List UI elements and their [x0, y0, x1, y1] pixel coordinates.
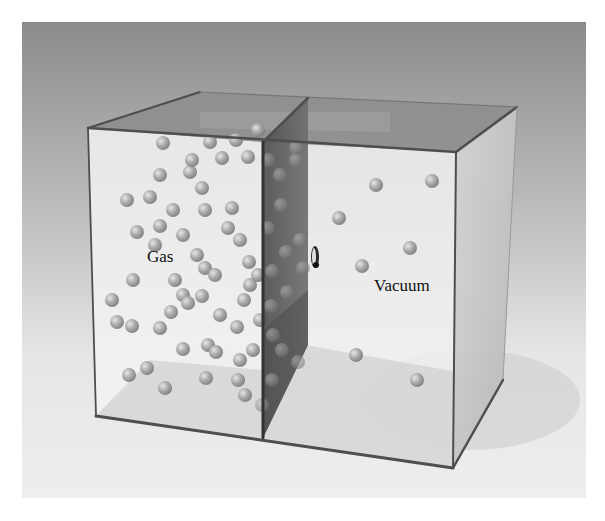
- gas-particle: [241, 150, 255, 164]
- gas-particle: [190, 248, 204, 262]
- gas-particle: [369, 178, 383, 192]
- gas-particle: [233, 233, 247, 247]
- gas-particle: [410, 373, 424, 387]
- gas-particle: [289, 153, 303, 167]
- gas-particle: [233, 353, 247, 367]
- gas-particle: [273, 168, 287, 182]
- gas-particle: [181, 296, 195, 310]
- gas-particle: [176, 228, 190, 242]
- gas-particle: [403, 241, 417, 255]
- gas-particle: [105, 293, 119, 307]
- gas-particle: [355, 259, 369, 273]
- gas-particle: [176, 342, 190, 356]
- gas-particle: [195, 181, 209, 195]
- gas-particle: [213, 308, 227, 322]
- gas-particle: [199, 371, 213, 385]
- gas-particle: [231, 373, 245, 387]
- gas-particle: [183, 165, 197, 179]
- gas-particle: [208, 268, 222, 282]
- gas-particle: [332, 211, 346, 225]
- gas-particle: [237, 293, 251, 307]
- gas-particle: [156, 136, 170, 150]
- gas-particle: [166, 203, 180, 217]
- gas-particle: [110, 315, 124, 329]
- gas-particle: [264, 299, 278, 313]
- gas-particle: [229, 133, 243, 147]
- gas-particle: [126, 273, 140, 287]
- gas-particle: [164, 305, 178, 319]
- gas-particle: [349, 348, 363, 362]
- gas-particle: [238, 388, 252, 402]
- partition-hole-icon: [311, 246, 319, 268]
- gas-particle: [265, 373, 279, 387]
- gas-particle: [221, 221, 235, 235]
- gas-particle: [266, 328, 280, 342]
- gas-particle: [296, 261, 310, 275]
- gas-particle: [140, 361, 154, 375]
- gas-particle: [120, 193, 134, 207]
- gas-particle: [275, 343, 289, 357]
- gas-particle: [153, 219, 167, 233]
- gas-particle: [215, 151, 229, 165]
- gas-particle: [425, 174, 439, 188]
- gas-particle: [251, 123, 265, 137]
- gas-particle: [168, 273, 182, 287]
- gas-particle: [279, 245, 293, 259]
- gas-particle: [122, 368, 136, 382]
- gas-particle: [158, 381, 172, 395]
- gas-expansion-diagram: [0, 0, 605, 521]
- gas-particle: [198, 203, 212, 217]
- gas-particle: [225, 201, 239, 215]
- gas-particle: [274, 198, 288, 212]
- gas-particle: [265, 264, 279, 278]
- gas-particle: [185, 153, 199, 167]
- gas-particle: [130, 225, 144, 239]
- gas-particle: [291, 355, 305, 369]
- gas-particle: [230, 320, 244, 334]
- gas-particle: [242, 255, 256, 269]
- gas-particle: [293, 233, 307, 247]
- vacuum-label: Vacuum: [374, 276, 430, 296]
- gas-label: Gas: [147, 247, 173, 267]
- gas-particle: [280, 285, 294, 299]
- gas-particle: [125, 319, 139, 333]
- gas-particle: [153, 168, 167, 182]
- gas-particle: [195, 289, 209, 303]
- gas-particle: [153, 321, 167, 335]
- gas-particle: [143, 190, 157, 204]
- gas-particle: [209, 345, 223, 359]
- gas-particle: [246, 343, 260, 357]
